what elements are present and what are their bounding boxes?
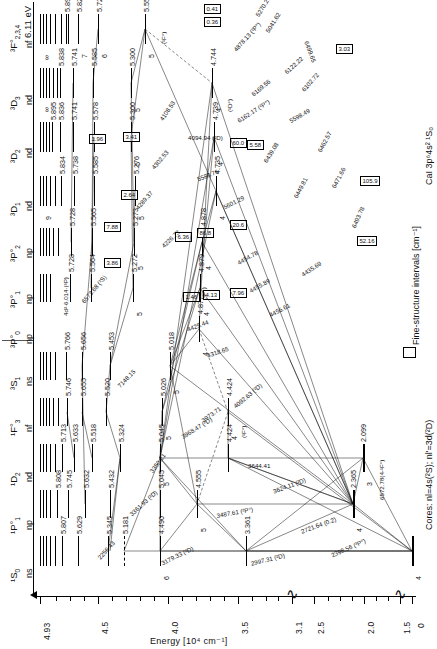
level-value-3D2-n4: 4.739 xyxy=(211,102,220,120)
level-value-1D2-n6: 5.324 xyxy=(117,424,126,442)
fs-box-18: 3.03 xyxy=(336,44,353,54)
n-label-3F-limit: ∞ xyxy=(43,55,50,60)
level-1P1-n10 xyxy=(57,490,58,518)
wavelength-label-2: 5041.62 xyxy=(264,11,282,34)
level-value-3S1-n5: 5.018 xyxy=(167,332,176,350)
level-value-1P1-n6: 5.045 xyxy=(157,470,166,488)
level-value-3P1-n4: 4.879 xyxy=(197,254,206,272)
level-1P1-n7 xyxy=(110,490,111,518)
n-label-3F-n6: 6 xyxy=(101,54,108,58)
wavelength-label-39: 2398.56 (³P°) xyxy=(330,537,367,558)
row-term-3P1: ³P°1 xyxy=(8,291,21,308)
n-label-3P1-n5: 5 xyxy=(136,312,143,316)
level-value-3D3-n7: 5.741 xyxy=(70,48,79,66)
level-1F3-n6 xyxy=(106,398,107,426)
origin-label-1F: (¹F°) xyxy=(160,32,167,44)
n-label-1S0-n4: 4 xyxy=(415,576,422,580)
n-label-1D2-n3: 3 xyxy=(366,482,373,486)
fs-key-box-icon xyxy=(403,347,416,358)
wavelength-label-22: 4318.65 xyxy=(206,345,229,359)
level-3D1-n6 xyxy=(94,176,95,206)
level-1D2-n9 xyxy=(62,444,63,472)
level-1D2-n4 xyxy=(228,444,229,472)
wavelength-label-6: 6162.17 (²P°) xyxy=(236,98,271,124)
fs-box-8: 7.88 xyxy=(104,222,121,232)
level-1F3-n4 xyxy=(228,398,229,426)
fs-box-7: 5.58 xyxy=(247,140,264,150)
level-3D1-n4 xyxy=(216,176,217,206)
row-config-3S1: ns xyxy=(24,376,34,386)
level-1S0-ground xyxy=(412,536,414,566)
axis-tick-0: 4.93 xyxy=(42,623,52,640)
level-3P1-n7 xyxy=(70,274,71,302)
row-config-1D2: nd xyxy=(24,472,34,482)
level-1S0-n10 xyxy=(62,536,63,566)
row-term-1D2: ¹D2 xyxy=(8,472,21,486)
fs-box-12: 20.6 xyxy=(230,220,247,230)
level-value-1P1-n5: 4.555 xyxy=(194,470,203,488)
level-value-1D2-n5: 5.045 xyxy=(157,424,166,442)
level-value-1P1-n10: 5.808 xyxy=(54,470,63,488)
fs-box-16: 105.9 xyxy=(360,176,380,186)
wavelength-label-3: 4878.13 (²P°) xyxy=(232,21,262,53)
row-config-3P0: np xyxy=(24,334,34,344)
axis-tick-8: 0 xyxy=(416,623,426,628)
species-label: CaI 3p⁶4s² ¹S₀ xyxy=(424,127,434,185)
fs-box-10: 86.8 xyxy=(197,228,214,238)
level-value-1P1-n9: 5.745 xyxy=(65,470,74,488)
level-1P1-n8 xyxy=(85,490,86,518)
level-1D2-n3 xyxy=(363,444,365,472)
row-term-3P2: ³P°2 xyxy=(8,245,21,262)
wavelength-label-14: 6462.57 xyxy=(316,130,333,153)
cores-label: Cores: nl=4s(²S); nl'=3d(²D) xyxy=(424,420,434,530)
ionization-energy-label: 6.11 eV xyxy=(22,6,33,38)
level-3F-n6 xyxy=(98,14,99,44)
wavelength-label-30: 3968.47 (²D) xyxy=(180,416,213,440)
level-value-3D3-n6: 5.585 xyxy=(90,48,99,66)
row-config-3D3: nd xyxy=(24,95,34,105)
level-value-1D2-n3: 2.099 xyxy=(359,424,368,442)
n-label-3F-n7: 7 xyxy=(81,54,88,58)
level-1P1-n9 xyxy=(68,490,69,518)
wavelength-label-17: 4454.78 xyxy=(236,249,259,266)
level-3S1-n7 xyxy=(82,352,83,380)
wavelength-label-28: 4092.63 (²D) xyxy=(232,382,263,410)
level-value-3D1-n8: 5.834 xyxy=(58,156,67,174)
fs-box-5: 2.64 xyxy=(121,190,138,200)
level-value-3S1-n7: 5.656 xyxy=(79,332,88,350)
axis-tick-6: 2.0 xyxy=(366,622,376,634)
wavelength-label-26: 4108.53 xyxy=(158,99,176,121)
fs-box-17: 52.16 xyxy=(357,236,377,246)
wavelength-label-8: 6102.72 xyxy=(300,71,320,92)
level-3D3-n6 xyxy=(93,68,94,98)
level-value-1S0-n6: 4.490 xyxy=(157,516,166,534)
level-value-1S0-n5: 3.361 xyxy=(243,516,252,534)
wavelength-label-19: 4456.61 xyxy=(268,301,291,318)
energy-axis-line xyxy=(34,596,416,597)
level-3P2-n5 xyxy=(134,228,135,256)
fs-box-9: 3.86 xyxy=(104,258,121,268)
wavelength-label-16: 6493.78 xyxy=(350,206,365,229)
axis-tick-3: 3.5 xyxy=(240,622,250,634)
axis-arrow xyxy=(30,591,37,599)
row-term-3S1: ³S1 xyxy=(8,377,21,390)
level-3P2-n7 xyxy=(71,228,72,256)
level-value-1F3-n5: 5.026 xyxy=(159,378,168,396)
level-value-3D1-n7: 5.738 xyxy=(71,156,80,174)
level-1D2-n6 xyxy=(120,444,121,472)
wavelength-label-40: 2256.43 xyxy=(96,539,116,560)
axis-tick-5: 2.5 xyxy=(316,622,326,634)
level-3F-n8 xyxy=(66,14,67,44)
row-config-3P2: np xyxy=(24,248,34,258)
row-config-3F: nf xyxy=(24,40,34,48)
axis-tick-1: 4.5 xyxy=(100,622,110,634)
level-value-1D2-n4: 4.424 xyxy=(225,424,234,442)
level-value-1S0-n9: 5.629 xyxy=(75,516,84,534)
wavelength-label-11: 5601.29 xyxy=(222,194,245,210)
level-value-3D2-n8: 5.836 xyxy=(57,102,66,120)
origin-label-1D: (¹D°) xyxy=(226,99,233,112)
axis-tick-4: 3.1 xyxy=(294,622,304,634)
level-1S0-n9 xyxy=(78,536,79,566)
n-label-1F3-n5: 5 xyxy=(165,436,172,440)
level-value-1S0-n7: 5.181 xyxy=(121,516,130,534)
